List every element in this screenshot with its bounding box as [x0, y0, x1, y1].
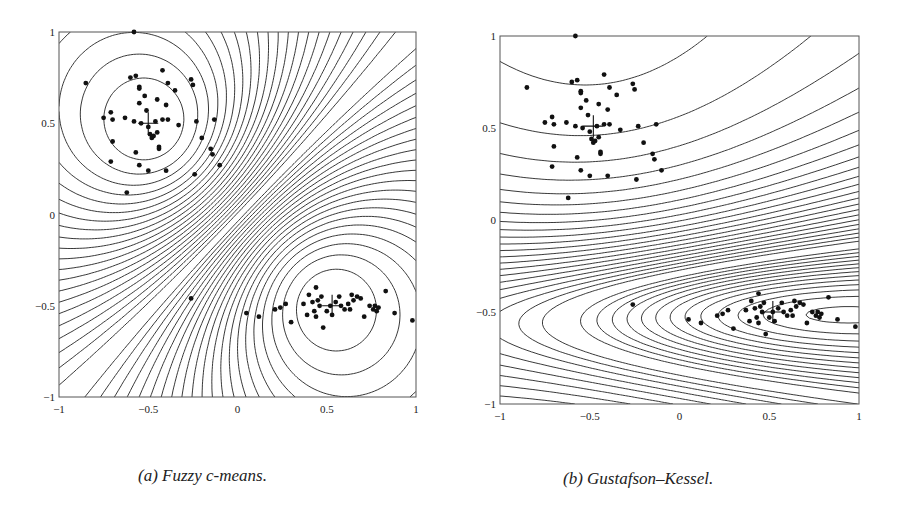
x-tick-label: −0.5 — [580, 410, 600, 422]
x-tick-label: 0 — [677, 410, 683, 422]
cluster-prototype-marker — [583, 115, 603, 137]
caption-fuzzy-c-means: (a) Fuzzy c-means. — [138, 466, 267, 486]
y-tick-label: 0 — [491, 214, 497, 226]
x-tick-label: 1 — [856, 410, 862, 422]
y-tick-label: −0.5 — [476, 306, 496, 318]
x-tick-label: −1 — [494, 410, 506, 422]
y-tick-label: −1 — [484, 398, 496, 410]
contour-lines — [500, 36, 859, 404]
caption-gustafson-kessel: (b) Gustafson–Kessel. — [563, 469, 713, 489]
gk-contour-chart: −1−1−0.5−0.5000.50.511 — [0, 0, 899, 440]
x-tick-label: 0.5 — [762, 410, 776, 422]
y-tick-label: 1 — [491, 30, 497, 42]
y-tick-label: 0.5 — [482, 122, 496, 134]
